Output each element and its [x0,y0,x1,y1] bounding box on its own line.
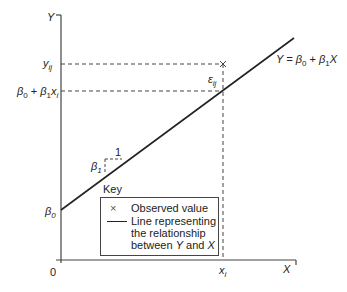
fitted-value-label: β0 + β1xi [17,85,58,97]
x-axis-label: X [283,263,290,275]
key-legend: × Observed value Line representing the r… [100,197,219,256]
intercept-label: β0 [45,205,56,217]
key-title: Key [103,183,122,195]
x-i-label: xi [219,264,226,276]
regression-equation: Y = β0 + β1X [276,53,337,65]
origin-label: 0 [50,266,56,278]
error-label: εij [208,73,216,85]
cross-icon: × [110,202,116,214]
slope-rise-label: β1 [91,160,102,172]
regression-line [61,38,294,210]
slope-run-label: 1 [115,146,121,158]
line-icon [107,221,127,222]
y-ij-label: yij [43,57,52,69]
y-axis-label: Y [47,11,54,23]
